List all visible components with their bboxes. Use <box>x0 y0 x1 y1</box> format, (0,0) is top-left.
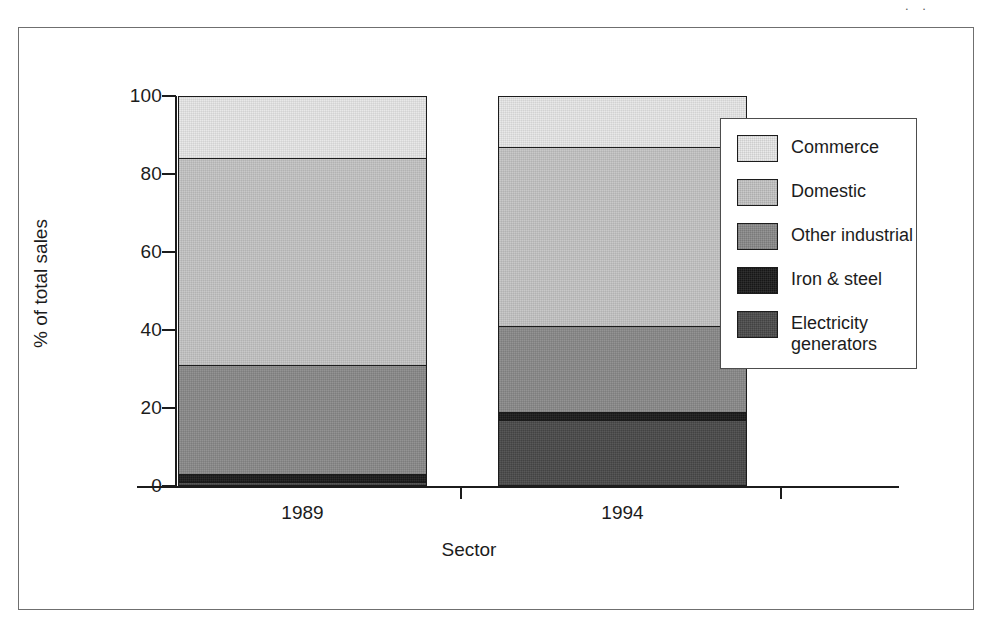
x-axis-title: Sector <box>339 540 599 559</box>
y-tick-label: 60 <box>106 242 162 261</box>
y-tick-label: 80 <box>106 164 162 183</box>
bar-segment-domestic <box>179 158 426 365</box>
bar-segment-other-industrial <box>179 365 426 474</box>
x-axis-line <box>137 486 899 488</box>
y-tick-label-wrap: 60 <box>91 242 162 261</box>
bar-segment-commerce <box>499 96 746 147</box>
page-artifact-text: . . <box>905 1 935 10</box>
legend-label: Other industrial <box>791 223 913 246</box>
legend-item-domestic: Domestic <box>737 179 866 206</box>
legend-swatch <box>737 311 778 338</box>
bar-stack-1989 <box>178 96 427 486</box>
y-tick-mark <box>162 95 176 97</box>
legend-item-electricity-generators: Electricity generators <box>737 311 877 355</box>
legend-label: Domestic <box>791 179 866 202</box>
y-tick-label-wrap: 80 <box>91 164 162 183</box>
x-tick-mark <box>460 486 462 499</box>
chart-legend: CommerceDomesticOther industrialIron & s… <box>720 118 917 369</box>
bar-segment-other-industrial <box>499 326 746 412</box>
x-tick-label-1994: 1994 <box>553 502 693 524</box>
legend-swatch <box>737 135 778 162</box>
legend-swatch <box>737 179 778 206</box>
legend-swatch <box>737 267 778 294</box>
bar-segment-iron-steel <box>179 474 426 482</box>
figure-frame: 020406080100 19891994 % of total sales S… <box>18 27 974 610</box>
legend-item-other-industrial: Other industrial <box>737 223 913 250</box>
y-tick-mark <box>162 251 176 253</box>
legend-swatch <box>737 223 778 250</box>
y-tick-mark <box>162 329 176 331</box>
y-tick-label-wrap: 0 <box>91 476 162 495</box>
plot-area: 020406080100 19891994 % of total sales S… <box>19 28 975 611</box>
y-axis-line <box>175 96 177 487</box>
bar-segment-commerce <box>179 96 426 158</box>
bar-segment-iron-steel <box>499 412 746 420</box>
y-tick-mark <box>162 407 176 409</box>
y-tick-label: 20 <box>106 398 162 417</box>
legend-label: Iron & steel <box>791 267 882 290</box>
y-tick-label-wrap: 40 <box>91 320 162 339</box>
legend-label: Commerce <box>791 135 879 158</box>
bar-segment-electricity-generators <box>499 420 746 486</box>
y-tick-mark <box>162 485 176 487</box>
y-tick-label: 40 <box>106 320 162 339</box>
legend-item-commerce: Commerce <box>737 135 879 162</box>
bar-segment-domestic <box>499 147 746 326</box>
bar-segment-electricity-generators <box>179 482 426 486</box>
y-tick-mark <box>162 173 176 175</box>
y-tick-label-wrap: 20 <box>91 398 162 417</box>
bar-stack-1994 <box>498 96 747 486</box>
legend-label: Electricity generators <box>791 311 877 355</box>
y-tick-label: 0 <box>106 476 162 495</box>
y-tick-label: 100 <box>106 86 162 105</box>
x-tick-label-1989: 1989 <box>233 502 373 524</box>
x-tick-mark <box>780 486 782 499</box>
legend-item-iron-steel: Iron & steel <box>737 267 882 294</box>
y-tick-label-wrap: 100 <box>91 86 162 105</box>
y-axis-title: % of total sales <box>31 119 50 449</box>
